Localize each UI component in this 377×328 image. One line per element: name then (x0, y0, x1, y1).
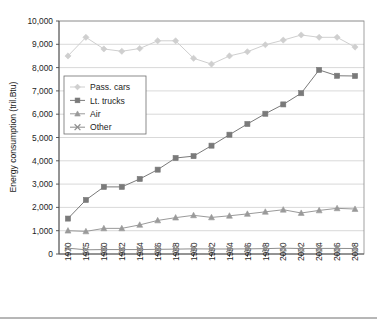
x-tick-label: 1988 (171, 242, 181, 261)
x-tick-label: 1975 (81, 242, 91, 261)
x-tick-label: 2000 (278, 242, 288, 261)
data-point (155, 167, 160, 172)
x-tick-label: 2008 (350, 242, 360, 261)
x-axis-tick-labels: 1970197519801982198419861988199019921994… (63, 242, 360, 261)
y-tick-label: 7,000 (32, 86, 53, 96)
y-tick-label: 6,000 (32, 109, 53, 119)
legend-label: Air (90, 109, 101, 119)
data-point (281, 102, 286, 107)
chart-legend: Pass. carsLt. trucksAirOther (64, 76, 146, 134)
data-point (263, 111, 268, 116)
y-axis-title: Energy consumption (tril.Btu) (8, 81, 18, 192)
y-tick-label: 10,000 (27, 16, 53, 26)
x-tick-label: 1980 (99, 242, 109, 261)
data-point (191, 154, 196, 159)
x-tick-label: 2002 (296, 242, 306, 261)
y-tick-label: 9,000 (32, 39, 53, 49)
y-tick-label: 5,000 (32, 133, 53, 143)
data-point (227, 132, 232, 137)
legend-marker-square (75, 98, 80, 103)
y-tick-label: 3,000 (32, 179, 53, 189)
data-point (65, 216, 70, 221)
x-tick-label: 1984 (135, 242, 145, 261)
x-tick-label: 1982 (117, 242, 127, 261)
energy-consumption-line-chart: 01,0002,0003,0004,0005,0006,0007,0008,00… (0, 0, 377, 328)
x-tick-label: 2004 (314, 242, 324, 261)
x-tick-label: 2006 (332, 242, 342, 261)
data-point (101, 184, 106, 189)
legend-label: Lt. trucks (90, 96, 125, 106)
y-tick-label: 0 (48, 249, 53, 259)
legend-label: Other (90, 122, 112, 132)
data-point (317, 67, 322, 72)
data-point (209, 143, 214, 148)
data-point (245, 121, 250, 126)
y-tick-label: 1,000 (32, 226, 53, 236)
data-point (83, 197, 88, 202)
x-tick-label: 1986 (153, 242, 163, 261)
data-point (335, 73, 340, 78)
x-tick-label: 1970 (63, 242, 73, 261)
data-point (137, 176, 142, 181)
data-point (173, 155, 178, 160)
chart-figure: 01,0002,0003,0004,0005,0006,0007,0008,00… (0, 0, 377, 328)
y-tick-label: 2,000 (32, 202, 53, 212)
y-tick-label: 8,000 (32, 63, 53, 73)
y-axis-tick-labels: 01,0002,0003,0004,0005,0006,0007,0008,00… (27, 16, 53, 259)
data-point (119, 184, 124, 189)
legend-label: Pass. cars (90, 82, 130, 92)
data-point (352, 73, 357, 78)
data-point (299, 91, 304, 96)
y-tick-label: 4,000 (32, 156, 53, 166)
